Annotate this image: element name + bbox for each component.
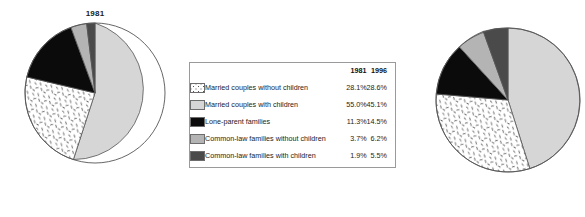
pie-chart-1996: [428, 18, 585, 188]
legend-swatch-cell: [190, 96, 205, 113]
pie-1981-svg: [24, 22, 166, 164]
legend-value-1981: 1.9%: [346, 147, 366, 164]
legend-header-1981: 1981: [346, 63, 366, 79]
legend-row: Common-law families without children 3.7…: [190, 130, 395, 147]
legend-swatch-cell: [190, 113, 205, 130]
legend-label: Common-law families without children: [205, 130, 346, 147]
legend-box: 1981 1996 Married couples without childr…: [189, 62, 396, 168]
legend-row: Common-law families with children 1.9% 5…: [190, 147, 395, 164]
legend-value-1981: 3.7%: [346, 130, 366, 147]
legend-swatch-cell: [190, 147, 205, 164]
legend-label: Married couples with children: [205, 96, 346, 113]
legend-header-row: 1981 1996: [190, 63, 395, 79]
legend-swatch-cell: [190, 79, 205, 96]
legend-value-1981: 11.3%: [346, 113, 366, 130]
legend-row: Lone-parent families 11.3% 14.5%: [190, 113, 395, 130]
legend-header-1996: 1996: [367, 63, 395, 79]
legend-label: Married couples without children: [205, 79, 346, 96]
legend-value-1996: 5.5%: [367, 147, 395, 164]
pie-chart-1981: 1981: [22, 4, 168, 174]
mid-gray-swatch-icon: [190, 134, 205, 144]
legend-row: Married couples without children 28.1% 2…: [190, 79, 395, 96]
dark-gray-swatch-icon: [190, 151, 205, 161]
pie-title-1981: 1981: [22, 9, 168, 18]
legend-label: Lone-parent families: [205, 113, 346, 130]
legend-label: Common-law families with children: [205, 147, 346, 164]
legend-row: Married couples with children 55.0% 45.1…: [190, 96, 395, 113]
pie-1996-svg: [428, 18, 585, 178]
black-swatch-icon: [190, 117, 205, 127]
pie-1996-graphic: [428, 18, 585, 178]
legend-value-1981: 55.0%: [346, 96, 366, 113]
light-gray-swatch-icon: [190, 100, 205, 110]
speckled-white-swatch-icon: [190, 83, 205, 93]
legend-value-1996: 28.6%: [367, 79, 395, 96]
legend-value-1996: 14.5%: [367, 113, 395, 130]
legend-value-1981: 28.1%: [346, 79, 366, 96]
legend-table: 1981 1996 Married couples without childr…: [190, 63, 395, 164]
legend-header-swatch: [190, 63, 205, 79]
legend-swatch-cell: [190, 130, 205, 147]
pie-1981-graphic: [24, 22, 166, 164]
legend-value-1996: 6.2%: [367, 130, 395, 147]
legend-header-label: [205, 63, 346, 79]
legend-value-1996: 45.1%: [367, 96, 395, 113]
